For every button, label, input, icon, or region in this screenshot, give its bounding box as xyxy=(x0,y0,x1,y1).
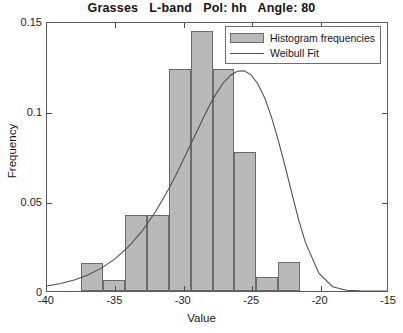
chart-legend: Histogram frequencies Weibull Fit xyxy=(225,26,381,64)
y-tick-label: 0.15 xyxy=(0,16,42,28)
y-axis-tick xyxy=(47,203,52,204)
figure-canvas: Grasses L-band Pol: hh Angle: 80 -40-35-… xyxy=(0,0,403,333)
y-axis-tick xyxy=(382,203,387,204)
legend-item-histogram: Histogram frequencies xyxy=(230,30,376,45)
y-axis-tick xyxy=(47,113,52,114)
x-tick-label: -30 xyxy=(163,294,203,306)
x-tick-label: -15 xyxy=(368,294,403,306)
weibull-fit-path xyxy=(47,71,387,291)
x-axis-tick xyxy=(115,23,116,28)
chart-title: Grasses L-band Pol: hh Angle: 80 xyxy=(0,1,403,15)
y-axis-title: Frequency xyxy=(6,101,18,201)
y-tick-label: 0 xyxy=(0,286,42,298)
x-axis-tick xyxy=(115,286,116,291)
x-axis-tick xyxy=(184,23,185,28)
legend-label-histogram: Histogram frequencies xyxy=(270,32,375,44)
legend-patch-icon xyxy=(230,33,264,43)
x-axis-tick xyxy=(321,286,322,291)
x-axis-tick xyxy=(252,286,253,291)
x-axis-tick xyxy=(184,286,185,291)
legend-item-weibull: Weibull Fit xyxy=(230,45,376,60)
x-tick-label: -20 xyxy=(300,294,340,306)
x-tick-label: -35 xyxy=(94,294,134,306)
y-axis-tick xyxy=(382,113,387,114)
legend-line-icon xyxy=(230,48,264,58)
legend-label-weibull: Weibull Fit xyxy=(270,47,319,59)
x-axis-title: Value xyxy=(0,312,403,324)
x-tick-label: -25 xyxy=(231,294,271,306)
